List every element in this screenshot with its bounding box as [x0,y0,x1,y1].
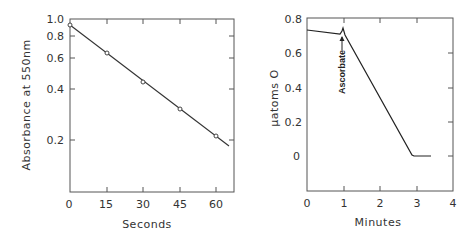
left-xtick-15: 15 [99,198,113,211]
right-xtick-4: 4 [450,197,457,210]
data-point [178,107,182,111]
right-xtick-0: 0 [304,197,311,210]
data-point [68,23,72,27]
left-ytick-0.4: 0.4 [47,83,65,96]
right-ytick-0.8: 0.8 [285,13,303,26]
left-xtick-45: 45 [173,198,187,211]
left-plot-frame [70,19,234,192]
data-point [105,51,109,55]
right-ytick-0.4: 0.4 [285,82,303,95]
data-point [214,134,218,138]
left-x-axis-title: Seconds [122,218,172,231]
left-chart: 1.0 0.8 0.6 0.4 0.2 0 15 30 45 60 Second… [20,13,234,231]
ascorbate-label: Ascorbate [337,50,347,94]
right-chart: 0.8 0.6 0.4 0.2 0 0 1 2 3 4 Minutes µato… [268,13,457,229]
right-x-ticks [344,18,417,191]
left-y-axis-title: Absorbance at 550nm [20,39,33,170]
left-ytick-0.8: 0.8 [47,30,65,43]
left-xtick-0: 0 [66,198,73,211]
left-ytick-0.6: 0.6 [47,52,65,65]
right-y-ticks [448,53,453,156]
ascorbate-annotation: Ascorbate [337,36,347,94]
left-ytick-0.2: 0.2 [47,134,65,147]
right-ytick-0.6: 0.6 [285,47,303,60]
right-x-axis-title: Minutes [355,216,402,229]
right-oxygen-trace [307,28,431,156]
left-xtick-30: 30 [136,198,150,211]
right-plot-frame [307,18,453,191]
right-ytick-0.2: 0.2 [285,116,303,129]
left-x-ticks [107,19,216,192]
right-xtick-2: 2 [377,197,384,210]
arrowhead-icon [340,36,345,41]
right-xtick-1: 1 [341,197,348,210]
right-xtick-3: 3 [414,197,421,210]
figure: 1.0 0.8 0.6 0.4 0.2 0 15 30 45 60 Second… [0,0,470,237]
left-ytick-1.0: 1.0 [47,13,65,26]
left-xtick-60: 60 [209,198,223,211]
left-fit-line [70,25,229,146]
data-point [141,80,145,84]
right-ytick-0: 0 [293,150,300,163]
right-y-axis-title: µatoms O [268,69,281,126]
